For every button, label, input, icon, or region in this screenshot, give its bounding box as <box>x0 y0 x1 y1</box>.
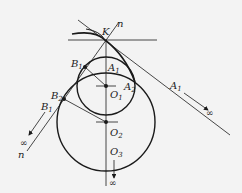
curvature-diagram: K n n A1 A2 A1 B1 B2 B1 O1 O2 O3 ∞ ∞ ∞ <box>0 0 242 193</box>
label-n-bottom: n <box>18 149 24 160</box>
diagram-canvas: K n n A1 A2 A1 B1 B2 B1 O1 O2 O3 ∞ ∞ ∞ <box>0 0 242 193</box>
point-o2 <box>104 120 108 124</box>
point-o1 <box>104 84 108 88</box>
label-a1-far: A1 <box>169 80 182 93</box>
infinity-o3: ∞ <box>109 178 117 188</box>
infinity-a1: ∞ <box>206 108 214 118</box>
label-o3: O3 <box>110 146 123 159</box>
b1-arrow <box>29 112 45 135</box>
label-b1: B1 <box>70 58 83 71</box>
label-n-top: n <box>117 18 123 29</box>
label-b2: B2 <box>50 90 63 103</box>
label-o2: O2 <box>110 127 123 140</box>
label-k: K <box>101 26 110 37</box>
a1-arrow <box>184 93 208 110</box>
radius-b2 <box>64 99 106 122</box>
point-b1 <box>83 65 87 69</box>
label-o1: O1 <box>110 89 123 102</box>
infinity-b1: ∞ <box>20 138 28 148</box>
label-b1-far: B1 <box>40 101 53 114</box>
